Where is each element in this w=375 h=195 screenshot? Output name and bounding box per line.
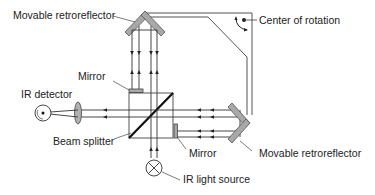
label-top-mirror: Mirror — [78, 70, 106, 82]
top-mirror — [129, 89, 143, 93]
label-ir-detector: IR detector — [21, 88, 73, 100]
interferometer-diagram: Movable retroreflector Center of rotatio… — [0, 0, 375, 195]
vertical-beam-arrows — [130, 51, 159, 151]
center-of-rotation-icon — [235, 16, 258, 32]
top-retroreflector — [125, 11, 165, 36]
ir-light-source-icon — [146, 160, 162, 176]
label-right-mirror: Mirror — [189, 147, 217, 159]
label-right-retroreflector: Movable retroreflector — [259, 147, 362, 159]
label-beam-splitter: Beam splitter — [53, 135, 115, 147]
horizontal-beams — [78, 110, 240, 137]
ir-detector-icon — [35, 105, 51, 121]
lens-icon — [75, 102, 82, 124]
right-mirror — [174, 124, 178, 138]
horizontal-beam-arrows — [103, 108, 214, 139]
detector-rays — [50, 110, 78, 117]
label-ir-light-source: IR light source — [183, 173, 250, 185]
label-top-retroreflector: Movable retroreflector — [13, 9, 116, 21]
label-center-of-rotation: Center of rotation — [259, 14, 340, 26]
